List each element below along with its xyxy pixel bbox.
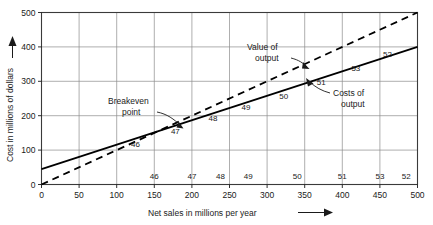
x-tick-label: 450 [373,190,387,200]
axis-year-label: 48 [216,172,225,181]
x-tick-labels: 050100150200250300350400450500 [39,190,425,200]
x-axis-title: Net sales in millions per year [148,208,257,218]
x-tick-label: 100 [110,190,124,200]
breakeven-chart: 050100150200250300350400450500 010020030… [0,0,433,225]
x-tick-label: 500 [410,190,424,200]
x-tick-label: 150 [147,190,161,200]
axis-year-label: 53 [375,172,384,181]
x-tick-label: 300 [260,190,274,200]
x-tick-label: 50 [74,190,84,200]
inline-year-label: 53 [351,64,360,73]
x-axis-arrow-head [324,209,333,217]
axis-year-label: 52 [402,172,411,181]
inline-year-label: 46 [131,140,140,149]
axis-year-label: 51 [338,172,347,181]
inline-year-label: 47 [171,127,180,136]
breakeven-label-line1: Breakeven [108,96,149,106]
chart-container: 050100150200250300350400450500 010020030… [0,0,433,225]
inline-year-label: 49 [242,103,251,112]
y-tick-label: 200 [21,111,35,121]
costs-label-line2: output [341,99,365,109]
value-label-line2: output [255,53,279,63]
y-tick-label: 0 [31,180,36,190]
inline-year-label: 50 [279,92,288,101]
inline-year-label: 48 [209,114,218,123]
y-axis-arrow-head [9,36,17,46]
breakeven-label-line2: point [122,107,141,117]
y-tick-labels: 0100200300400500 [21,8,35,190]
axis-year-label: 46 [150,172,159,181]
x-tick-label: 400 [335,190,349,200]
x-tick-label: 200 [185,190,199,200]
x-axis-title-group: Net sales in millions per year [148,208,333,218]
y-tick-label: 400 [21,42,35,52]
value-label-line1: Value of [247,42,278,52]
x-tick-label: 0 [39,190,44,200]
y-tick-label: 100 [21,145,35,155]
axis-year-label: 50 [293,172,302,181]
y-axis-title-group: Cost in millions of dollars [5,36,17,162]
axis-year-label: 47 [187,172,196,181]
y-tick-label: 500 [21,8,35,18]
inline-year-label: 52 [383,50,392,59]
costs-label-line1: Costs of [333,88,365,98]
y-axis-title: Cost in millions of dollars [5,68,15,162]
axis-year-label: 49 [244,172,253,181]
y-tick-label: 300 [21,76,35,86]
inline-year-label: 51 [317,78,326,87]
x-tick-label: 350 [298,190,312,200]
x-tick-label: 250 [222,190,236,200]
